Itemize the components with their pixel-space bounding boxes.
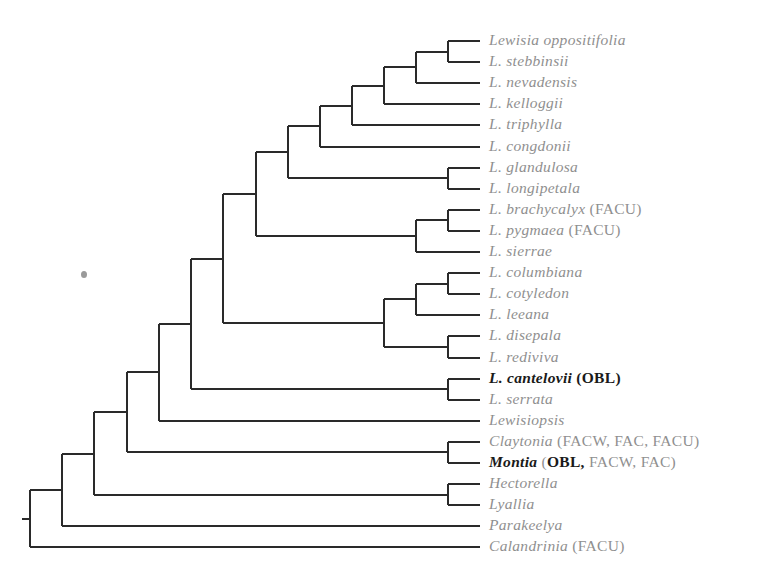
taxon-label: Lyallia xyxy=(489,497,535,512)
taxon-name: L. cantelovii xyxy=(489,369,572,386)
taxon-name: Lewisiopsis xyxy=(489,411,565,428)
taxon-label: L. cantelovii (OBL) xyxy=(489,370,621,386)
taxon-name: L. triphylla xyxy=(489,116,562,133)
wetland-status: (FACW, FAC, FACU) xyxy=(553,432,700,449)
taxon-label: L. brachycalyx (FACU) xyxy=(489,201,642,217)
taxon-label: Lewisia oppositifolia xyxy=(489,32,626,48)
taxon-name: Parakeelya xyxy=(489,517,563,534)
taxon-label: L. nevadensis xyxy=(489,75,577,91)
wetland-status-obligate: OBL, xyxy=(547,453,585,470)
taxon-label: L. columbiana xyxy=(489,265,582,281)
wetland-status: (FACU) xyxy=(585,200,642,217)
taxon-label: L. longipetala xyxy=(489,180,580,196)
taxon-name: Claytonia xyxy=(489,432,553,449)
taxon-label: L. congdonii xyxy=(489,138,571,154)
taxon-label: L. leeana xyxy=(489,307,549,323)
taxon-name: L. leeana xyxy=(489,306,549,323)
taxon-name: L. kelloggii xyxy=(489,95,563,112)
taxon-name: L. columbiana xyxy=(489,264,582,281)
taxon-label: L. cotyledon xyxy=(489,286,569,302)
taxon-name: L. stebbinsii xyxy=(489,53,569,70)
wetland-status: FACW, FAC) xyxy=(585,453,676,470)
taxon-label: L. sierrae xyxy=(489,243,552,259)
taxon-label: L. stebbinsii xyxy=(489,54,569,70)
taxon-name: L. cotyledon xyxy=(489,285,569,302)
taxon-label: Calandrinia (FACU) xyxy=(489,539,625,555)
taxon-label: L. pygmaea (FACU) xyxy=(489,222,621,238)
wetland-status: (FACU) xyxy=(564,221,621,238)
taxon-name: L. sierrae xyxy=(489,242,552,259)
taxon-label: Lewisiopsis xyxy=(489,412,565,428)
taxon-name: Montia xyxy=(489,453,537,470)
taxon-label: L. serrata xyxy=(489,391,553,407)
wetland-status-prefix: ( xyxy=(537,453,547,470)
taxon-label: L. triphylla xyxy=(489,117,562,133)
scan-speck xyxy=(81,271,87,278)
taxon-label: Claytonia (FACW, FAC, FACU) xyxy=(489,433,699,449)
taxon-label: L. disepala xyxy=(489,328,561,344)
phylogenetic-tree xyxy=(0,0,782,584)
taxon-label: L. glandulosa xyxy=(489,159,578,175)
taxon-label: L. rediviva xyxy=(489,349,559,365)
taxon-name: L. disepala xyxy=(489,327,561,344)
wetland-status-obligate: (OBL) xyxy=(572,369,621,386)
taxon-name: L. congdonii xyxy=(489,137,571,154)
taxon-name: Lyallia xyxy=(489,496,535,513)
taxon-name: Lewisia oppositifolia xyxy=(489,31,626,48)
taxon-name: L. rediviva xyxy=(489,348,559,365)
taxon-name: L. serrata xyxy=(489,390,553,407)
taxon-name: L. pygmaea xyxy=(489,221,564,238)
taxon-label: Hectorella xyxy=(489,476,558,492)
taxon-name: Calandrinia xyxy=(489,538,568,555)
taxon-label: L. kelloggii xyxy=(489,96,563,112)
taxon-label: Montia (OBL, FACW, FAC) xyxy=(489,454,676,470)
taxon-label: Parakeelya xyxy=(489,518,563,534)
wetland-status: (FACU) xyxy=(568,538,625,555)
taxon-name: L. nevadensis xyxy=(489,74,577,91)
taxon-name: Hectorella xyxy=(489,475,558,492)
taxon-name: L. longipetala xyxy=(489,179,580,196)
taxon-name: L. brachycalyx xyxy=(489,200,585,217)
taxon-name: L. glandulosa xyxy=(489,158,578,175)
